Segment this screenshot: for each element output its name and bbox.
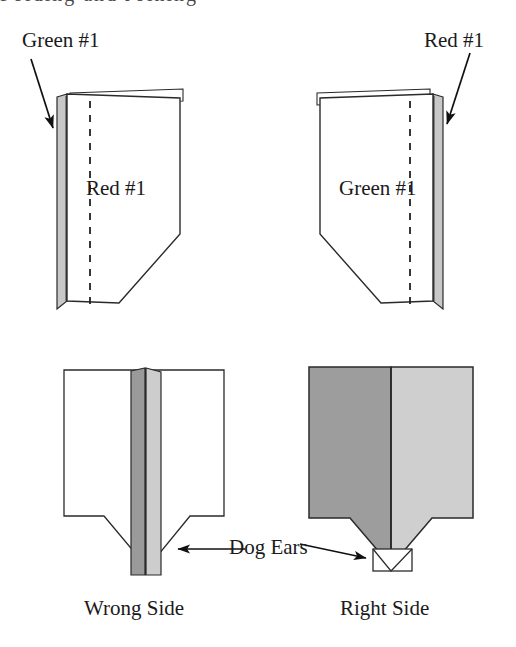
label-red-callout: Red #1 — [424, 30, 484, 51]
label-green-inner: Green #1 — [339, 178, 417, 199]
label-green-callout: Green #1 — [22, 30, 100, 51]
right-side-light-half — [391, 367, 473, 566]
arrow-green-callout — [31, 59, 53, 128]
dog-ear-tab — [373, 549, 412, 571]
figure-canvas: Folding and Joining — [0, 0, 516, 647]
seam-allowance-light-strip — [146, 368, 161, 575]
wrong-side-piece — [64, 368, 245, 575]
label-red-inner: Red #1 — [86, 178, 146, 199]
right-fold-edge-strip — [433, 94, 443, 309]
left-fold-edge-strip — [57, 94, 67, 309]
arrow-red-callout — [447, 53, 470, 124]
right-side-piece — [300, 367, 473, 571]
right-side-dark-half — [309, 367, 391, 566]
arrow-dogears-right — [300, 544, 366, 558]
caption-wrong-side: Wrong Side — [84, 598, 184, 619]
caption-right-side: Right Side — [340, 598, 429, 619]
seam-allowance-dark-strip — [131, 368, 145, 575]
label-dog-ears: Dog Ears — [229, 537, 308, 558]
